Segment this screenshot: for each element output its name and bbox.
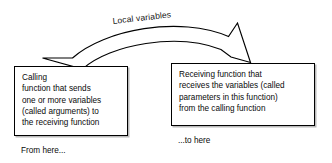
receiving-function-text: Receiving function that receives the var… [179,69,310,114]
diagram-canvas: Local variables Calling function that se… [0,0,332,163]
receiving-function-box: Receiving function that receives the var… [171,63,315,126]
calling-function-text: Calling function that sends one or more … [22,72,123,128]
calling-function-box: Calling function that sends one or more … [14,66,128,136]
to-here-caption: ...to here [178,135,210,146]
from-here-caption: From here... [21,145,66,156]
